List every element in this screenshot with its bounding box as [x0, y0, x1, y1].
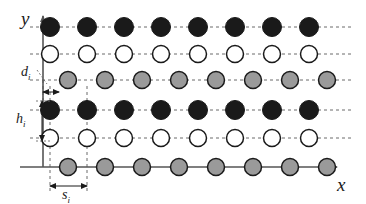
lattice-circle [42, 130, 59, 147]
lattice-circle [227, 46, 244, 63]
lattice-circle [282, 72, 299, 89]
lattice-figure: y x di hi si [0, 0, 366, 204]
d-offset-leader-line [37, 70, 47, 84]
lattice-circle [226, 18, 245, 37]
lattice-circle [208, 159, 225, 176]
lattice-circle [134, 159, 151, 176]
lattice-circle [208, 72, 225, 89]
lattice-circle [189, 18, 208, 37]
lattice-circle [152, 18, 171, 37]
lattice-row-gray-upper [60, 72, 336, 89]
lattice-circle [171, 159, 188, 176]
lattice-circle [301, 130, 318, 147]
lattice-circle [190, 46, 207, 63]
h-height-label: hi [16, 111, 26, 129]
lattice-circle [301, 46, 318, 63]
lattice-circle [60, 72, 77, 89]
lattice-circle [116, 130, 133, 147]
lattice-row-white-upper [42, 46, 318, 63]
s-spacing-label: si [62, 187, 70, 204]
lattice-circle [153, 130, 170, 147]
lattice-circle [263, 101, 282, 120]
lattice-circle [264, 130, 281, 147]
lattice-circle [134, 72, 151, 89]
lattice-circle [190, 130, 207, 147]
lattice-circle [282, 159, 299, 176]
lattice-circle [116, 46, 133, 63]
lattice-circle [78, 101, 97, 120]
lattice-circle [60, 159, 77, 176]
lattice-circle [226, 101, 245, 120]
lattice-circle [319, 72, 336, 89]
lattice-circle [153, 46, 170, 63]
lattice-figure-svg: y x di hi si [0, 0, 366, 204]
lattice-circle [264, 46, 281, 63]
lattice-circle [42, 46, 59, 63]
lattice-circle [115, 101, 134, 120]
lattice-circle [97, 159, 114, 176]
lattice-circle [97, 72, 114, 89]
lattice-circle [227, 130, 244, 147]
lattice-row-black-lower [41, 101, 319, 120]
lattice-circle [300, 18, 319, 37]
s-spacing-subscript: i [67, 195, 70, 204]
h-height-symbol: h [16, 111, 23, 126]
d-offset-label: di [21, 64, 31, 82]
lattice-circle [115, 18, 134, 37]
lattice-circle [41, 18, 60, 37]
lattice-circle [245, 72, 262, 89]
coordinate-axes [20, 16, 337, 167]
lattice-circle [300, 101, 319, 120]
lattice-circle [79, 130, 96, 147]
lattice-circle [41, 101, 60, 120]
lattice-circle [152, 101, 171, 120]
lattice-row-black-top [41, 18, 319, 37]
lattice-circle [79, 46, 96, 63]
h-height-subscript: i [23, 119, 26, 129]
lattice-circle [263, 18, 282, 37]
lattice-circle [319, 159, 336, 176]
x-axis-label: x [336, 174, 346, 195]
lattice-row-white-lower [42, 130, 318, 147]
y-axis-label: y [19, 8, 30, 29]
lattice-circle [189, 101, 208, 120]
lattice-circle [171, 72, 188, 89]
lattice-circle [78, 18, 97, 37]
row-guide-lines [30, 27, 352, 138]
lattice-circle [245, 159, 262, 176]
